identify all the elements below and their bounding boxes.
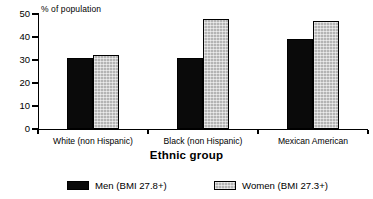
plot-area (38, 14, 368, 129)
y-tick-label: 0 (0, 124, 30, 133)
y-tick-label: 50 (0, 9, 30, 18)
category-label: Mexican American (278, 136, 348, 146)
x-axis-title: Ethnic group (0, 149, 373, 161)
x-tick (37, 130, 38, 134)
legend-swatch-women-icon (214, 181, 236, 190)
y-tick-label: 10 (0, 101, 30, 110)
bar-women (93, 55, 119, 129)
legend-label-men: Men (BMI 27.8+) (95, 180, 167, 191)
legend-label-women: Women (BMI 27.3+) (242, 180, 328, 191)
x-tick (257, 130, 258, 134)
bar-women (313, 21, 339, 129)
x-tick (147, 130, 148, 134)
x-tick (367, 130, 368, 134)
bar-men (177, 58, 203, 129)
bar-men (67, 58, 93, 129)
legend-swatch-men-icon (67, 181, 89, 190)
chart-legend: Men (BMI 27.8+) Women (BMI 27.3+) (0, 180, 373, 194)
legend-item-women: Women (BMI 27.3+) (214, 180, 328, 191)
bar-men (287, 39, 313, 129)
category-label: Black (non Hispanic) (164, 136, 243, 146)
bar-women (203, 19, 229, 129)
bmi-overweight-bar-chart: % of population 01020304050 White (non H… (0, 0, 373, 199)
x-axis-line (38, 129, 368, 130)
y-axis-title: % of population (41, 4, 101, 14)
category-label: White (non Hispanic) (53, 136, 133, 146)
y-tick-label: 20 (0, 78, 30, 87)
y-tick-label: 40 (0, 32, 30, 41)
legend-item-men: Men (BMI 27.8+) (67, 180, 167, 191)
y-tick-label: 30 (0, 55, 30, 64)
